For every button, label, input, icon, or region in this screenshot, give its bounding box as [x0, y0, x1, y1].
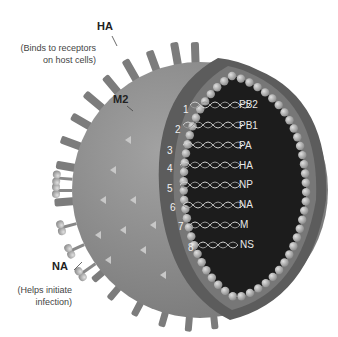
segment-label: PA	[239, 140, 252, 151]
na-description-line1: (Helps initiate	[4, 284, 72, 296]
segment-label: M	[240, 219, 248, 230]
na-label: NA	[52, 260, 68, 272]
segment-number: 1	[183, 104, 189, 115]
segment-label: PB2	[239, 99, 258, 110]
ha-description-line1: (Binds to receptors	[14, 42, 96, 54]
na-description: (Helps initiate infection)	[4, 284, 72, 308]
segment-number: 4	[167, 163, 173, 174]
segment-label: PB1	[239, 120, 258, 131]
segment-label: NA	[239, 199, 253, 210]
segment-label: NP	[239, 179, 253, 190]
segment-number: 2	[175, 124, 181, 135]
segment-number: 7	[178, 221, 184, 232]
ha-label: HA	[97, 20, 113, 32]
segment-number: 8	[188, 242, 194, 253]
ha-description-line2: on host cells)	[14, 54, 96, 66]
ha-description: (Binds to receptors on host cells)	[14, 42, 96, 66]
segment-label: HA	[239, 160, 253, 171]
segment-label: NS	[240, 239, 254, 250]
segment-number: 6	[170, 202, 176, 213]
segment-number: 3	[167, 145, 173, 156]
m2-label: M2	[113, 93, 128, 105]
segment-number: 5	[167, 183, 173, 194]
na-description-line2: infection)	[4, 296, 72, 308]
